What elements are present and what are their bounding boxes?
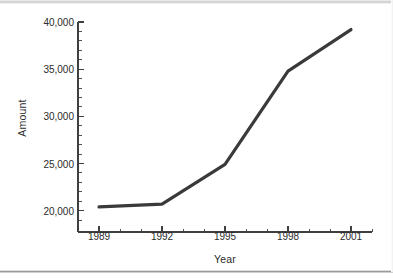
x-axis-tick-label: 1995 (203, 231, 247, 242)
x-axis-tick-label: 2001 (329, 231, 373, 242)
y-axis-tick-labels: 20,00025,00030,00035,00040,000 (24, 0, 74, 278)
axes (78, 22, 372, 232)
data-series-line (99, 30, 351, 207)
series-amount-line (99, 30, 351, 207)
x-axis-tick-label: 1998 (266, 231, 310, 242)
x-axis-title: Year (78, 253, 372, 265)
y-axis-tick-label: 30,000 (26, 111, 74, 122)
chart-page: 20,00025,00030,00035,00040,000 198919921… (0, 0, 393, 278)
x-axis-tick-label: 1989 (77, 231, 121, 242)
y-axis-tick-label: 35,000 (26, 64, 74, 75)
y-axis-tick-label: 20,000 (26, 205, 74, 216)
y-axis-tick-label: 40,000 (26, 17, 74, 28)
y-axis-tick-label: 25,000 (26, 158, 74, 169)
x-axis-tick-label: 1992 (140, 231, 184, 242)
y-axis-title: Amount (16, 82, 28, 154)
